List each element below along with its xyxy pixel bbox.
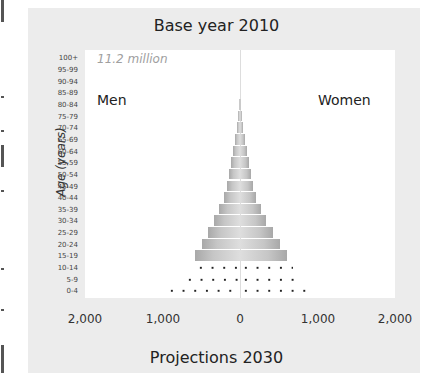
left-edge-marks bbox=[0, 0, 6, 373]
bar-women-2010 bbox=[240, 157, 249, 168]
age-tick-label: 5-9 bbox=[67, 276, 78, 284]
age-tick-label: 100+ bbox=[59, 54, 78, 62]
bar-men-2010 bbox=[231, 157, 240, 168]
bar-men-2010 bbox=[202, 239, 240, 250]
age-tick-label: 15-19 bbox=[58, 252, 78, 260]
bar-men-projection-2030 bbox=[195, 262, 240, 273]
x-tick-label: 0 bbox=[236, 312, 244, 326]
bar-women-2010 bbox=[240, 181, 253, 192]
age-tick-label: 60-64 bbox=[58, 148, 78, 156]
bar-women-projection-2030 bbox=[240, 274, 303, 285]
bar-men-2010 bbox=[227, 181, 240, 192]
age-tick-label: 80-84 bbox=[58, 101, 78, 109]
bar-women-2010 bbox=[240, 111, 242, 122]
men-label: Men bbox=[97, 92, 127, 108]
age-tick-label: 85-89 bbox=[58, 89, 78, 97]
bar-men-2010 bbox=[208, 227, 240, 238]
age-tick-label: 95-99 bbox=[58, 66, 78, 74]
bar-women-2010 bbox=[240, 227, 273, 238]
age-tick-label: 0-4 bbox=[67, 287, 78, 295]
x-tick-label: 2,000 bbox=[68, 312, 102, 326]
bar-men-2010 bbox=[219, 204, 240, 215]
bar-women-2010 bbox=[240, 169, 251, 180]
bar-men-2010 bbox=[224, 192, 240, 203]
bar-women-projection-2030 bbox=[240, 262, 293, 273]
bar-men-2010 bbox=[229, 169, 240, 180]
edge-mark bbox=[1, 309, 4, 311]
bar-women-2010 bbox=[240, 146, 247, 157]
age-tick-label: 35-39 bbox=[58, 206, 78, 214]
bar-women-2010 bbox=[240, 134, 245, 145]
age-tick-label: 75-79 bbox=[58, 113, 78, 121]
total-annotation: 11.2 million bbox=[97, 52, 168, 66]
plot-area bbox=[85, 50, 395, 298]
age-tick-label: 30-34 bbox=[58, 217, 78, 225]
bar-women-2010 bbox=[240, 99, 241, 110]
edge-mark bbox=[1, 96, 4, 98]
x-tick-label: 2,000 bbox=[378, 312, 412, 326]
bar-women-projection-2030 bbox=[240, 285, 315, 296]
age-tick-label: 65-69 bbox=[58, 136, 78, 144]
bar-men-projection-2030 bbox=[166, 285, 240, 296]
x-tick-label: 1,000 bbox=[301, 312, 335, 326]
edge-mark bbox=[1, 190, 4, 192]
bar-women-2010 bbox=[240, 204, 261, 215]
age-tick-label: 90-94 bbox=[58, 78, 78, 86]
bar-men-2010 bbox=[214, 215, 240, 226]
bar-men-2010 bbox=[195, 250, 240, 261]
bar-women-2010 bbox=[240, 239, 280, 250]
bar-women-2010 bbox=[240, 192, 256, 203]
age-tick-label: 10-14 bbox=[58, 264, 78, 272]
edge-mark bbox=[1, 130, 4, 132]
bar-women-2010 bbox=[240, 215, 266, 226]
age-tick-label: 40-44 bbox=[58, 194, 78, 202]
x-axis-title: Projections 2030 bbox=[0, 348, 433, 367]
bar-women-2010 bbox=[240, 122, 243, 133]
chart-title: Base year 2010 bbox=[0, 16, 433, 35]
age-tick-label: 20-24 bbox=[58, 241, 78, 249]
edge-mark bbox=[1, 145, 4, 167]
age-tick-label: 55-59 bbox=[58, 159, 78, 167]
age-tick-label: 45-49 bbox=[58, 183, 78, 191]
age-tick-label: 70-74 bbox=[58, 124, 78, 132]
x-tick-label: 1,000 bbox=[146, 312, 180, 326]
women-label: Women bbox=[318, 92, 371, 108]
age-tick-label: 25-29 bbox=[58, 229, 78, 237]
age-tick-label: 50-54 bbox=[58, 171, 78, 179]
bar-men-projection-2030 bbox=[184, 274, 240, 285]
bar-women-2010 bbox=[240, 250, 287, 261]
edge-mark bbox=[1, 268, 4, 270]
bar-men-2010 bbox=[233, 146, 240, 157]
